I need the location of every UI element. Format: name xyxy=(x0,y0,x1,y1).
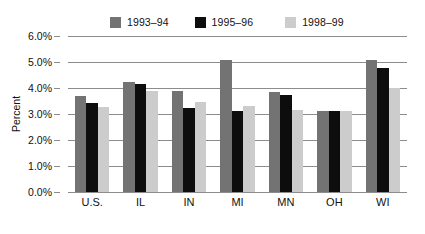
y-tick-label: 3.0% xyxy=(28,108,52,120)
y-tick-mark xyxy=(54,166,60,167)
bar xyxy=(340,111,352,192)
legend-label-series-0: 1993–94 xyxy=(127,17,169,28)
x-axis-labels: U.S.ILINMIMNOHWI xyxy=(68,196,407,214)
bar-group xyxy=(317,36,352,192)
bar xyxy=(195,102,207,192)
legend-label-series-1: 1995–96 xyxy=(212,17,254,28)
bar xyxy=(329,111,341,192)
bar xyxy=(366,60,378,192)
y-tick-label: 0.0% xyxy=(28,186,52,198)
legend-swatch-series-2 xyxy=(285,17,296,28)
bar xyxy=(269,92,281,192)
x-axis-label: IN xyxy=(184,196,195,208)
bar xyxy=(183,108,195,192)
bar xyxy=(75,96,87,192)
legend-item-series-0: 1993–94 xyxy=(110,17,169,28)
bar xyxy=(172,91,184,192)
x-axis-label: IL xyxy=(136,196,145,208)
bar xyxy=(377,68,389,192)
bar-group xyxy=(172,36,207,192)
bar xyxy=(220,60,232,192)
x-axis-label: MI xyxy=(231,196,243,208)
bar xyxy=(123,82,135,192)
legend-item-series-2: 1998–99 xyxy=(285,17,344,28)
bar-group xyxy=(220,36,255,192)
bar-group xyxy=(123,36,158,192)
legend-swatch-series-0 xyxy=(110,17,121,28)
bar xyxy=(317,111,329,192)
bar xyxy=(389,88,401,192)
bar-chart: 1993–94 1995–96 1998–99 Percent 6.0%5.0%… xyxy=(0,0,425,234)
y-tick-mark xyxy=(54,36,60,37)
bar-group xyxy=(366,36,401,192)
y-tick-mark xyxy=(54,62,60,63)
y-tick-label: 4.0% xyxy=(28,82,52,94)
y-tick-mark xyxy=(54,140,60,141)
legend-label-series-2: 1998–99 xyxy=(302,17,344,28)
bar-group xyxy=(269,36,304,192)
legend-item-series-1: 1995–96 xyxy=(195,17,254,28)
chart-legend: 1993–94 1995–96 1998–99 xyxy=(110,14,390,30)
bar xyxy=(146,91,158,192)
gridline xyxy=(68,192,407,193)
bar xyxy=(135,84,147,192)
bar xyxy=(98,107,110,192)
bar xyxy=(280,95,292,192)
x-axis-label: U.S. xyxy=(82,196,103,208)
bar xyxy=(243,106,255,192)
y-tick-mark xyxy=(54,88,60,89)
bar xyxy=(86,103,98,192)
bar-group xyxy=(75,36,110,192)
plot-area xyxy=(68,36,407,192)
y-tick-label: 6.0% xyxy=(28,30,52,42)
y-tick-label: 5.0% xyxy=(28,56,52,68)
y-tick-mark xyxy=(54,114,60,115)
y-tick-label: 2.0% xyxy=(28,134,52,146)
x-axis-label: MN xyxy=(277,196,294,208)
y-tick-label: 1.0% xyxy=(28,160,52,172)
x-axis-label: WI xyxy=(376,196,389,208)
legend-swatch-series-1 xyxy=(195,17,206,28)
y-axis-ticks: 6.0%5.0%4.0%3.0%2.0%1.0%0.0% xyxy=(0,36,60,192)
bar xyxy=(292,110,304,192)
y-tick-mark xyxy=(54,192,60,193)
bar xyxy=(232,111,244,192)
x-axis-label: OH xyxy=(326,196,343,208)
